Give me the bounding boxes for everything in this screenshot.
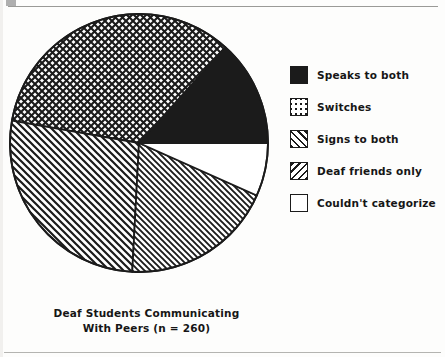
chart-legend: Speaks to bothSwitchesSigns to bothDeaf …: [290, 64, 442, 224]
pie-chart-figure: Speaks to bothSwitchesSigns to bothDeaf …: [0, 0, 445, 357]
legend-swatch-signs-to-both: [290, 130, 308, 148]
legend-item-speaks-to-both[interactable]: Speaks to both: [290, 64, 442, 85]
caption-line-2: With Peers (n = 260): [34, 321, 259, 336]
legend-item-deaf-friends-only[interactable]: Deaf friends only: [290, 160, 442, 181]
legend-label: Couldn't categorize: [317, 197, 436, 209]
legend-item-switches[interactable]: Switches: [290, 96, 442, 117]
legend-item-signs-to-both[interactable]: Signs to both: [290, 128, 442, 149]
scanned-figure-page: Speaks to bothSwitchesSigns to bothDeaf …: [0, 0, 445, 357]
legend-label: Speaks to both: [317, 69, 409, 81]
pie-slice-signs-to-both: [10, 121, 139, 272]
figure-caption: Deaf Students Communicating With Peers (…: [34, 306, 259, 336]
legend-swatch-deaf-friends-only: [290, 162, 308, 180]
legend-label: Deaf friends only: [317, 165, 422, 177]
legend-label: Signs to both: [317, 133, 399, 145]
pie-slices-group: [10, 14, 268, 272]
legend-label: Switches: [317, 101, 372, 113]
legend-item-couldn-t-categorize[interactable]: Couldn't categorize: [290, 192, 442, 213]
legend-swatch-switches: [290, 98, 308, 116]
legend-swatch-couldnt-categorize: [290, 194, 308, 212]
caption-line-1: Deaf Students Communicating: [34, 306, 259, 321]
legend-swatch-speaks-to-both: [290, 66, 308, 84]
